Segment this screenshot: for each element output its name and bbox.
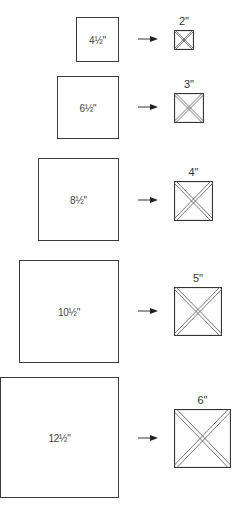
finished-size-label: 6" — [174, 394, 231, 406]
quarter-square-triangle-icon — [174, 30, 194, 50]
finished-size-label: 4" — [174, 166, 213, 178]
cut-size-label: 8½" — [39, 194, 118, 205]
cut-size-label: 6½" — [58, 102, 118, 113]
arrow-right-icon — [138, 103, 158, 111]
cut-square-8-5: 8½" — [38, 158, 119, 241]
quarter-square-triangle-icon — [174, 181, 213, 221]
quarter-square-triangle-icon — [174, 287, 222, 336]
arrow-right-icon — [138, 434, 158, 442]
cut-size-label: 4½" — [77, 34, 118, 45]
cut-square-12-5: 12½" — [0, 377, 119, 498]
cut-square-4-5: 4½" — [76, 17, 119, 62]
cut-square-6-5: 6½" — [57, 76, 119, 139]
arrow-right-icon — [138, 196, 158, 204]
finished-size-label: 3" — [174, 78, 204, 90]
cut-size-label: 10½" — [20, 306, 118, 317]
quarter-square-triangle-icon — [174, 93, 204, 123]
quarter-square-triangle-icon — [174, 409, 231, 468]
finished-size-label: 5" — [174, 272, 222, 284]
cut-size-label: 12½" — [1, 432, 118, 443]
arrow-right-icon — [138, 307, 158, 315]
arrow-right-icon — [138, 35, 158, 43]
finished-size-label: 2" — [174, 15, 194, 27]
cut-square-10-5: 10½" — [19, 260, 119, 363]
